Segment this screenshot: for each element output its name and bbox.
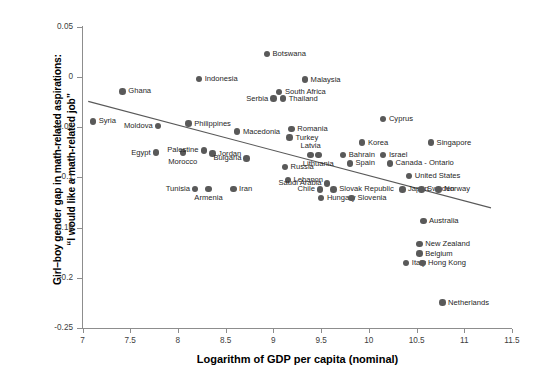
data-point [302, 76, 309, 83]
data-point [205, 186, 212, 193]
y-tick-mark [77, 127, 82, 128]
x-tick-label: 9.5 [301, 336, 341, 345]
data-point [196, 76, 203, 83]
data-point-label: Korea [368, 138, 388, 147]
data-point-label: United States [415, 171, 461, 180]
data-point-label: Canada - Ontario [396, 158, 454, 167]
x-tick-label: 11.5 [492, 336, 532, 345]
data-point [419, 260, 426, 267]
data-point-label: Tunisia [166, 184, 190, 193]
data-point [234, 128, 241, 135]
data-point [270, 95, 277, 102]
x-tick-label: 10 [349, 336, 389, 345]
data-point-label: Singapore [437, 138, 472, 147]
data-point-label: Norway [444, 184, 470, 193]
x-tick-mark [512, 329, 513, 333]
data-point-label: Iran [239, 184, 252, 193]
data-point [288, 126, 295, 133]
data-point [348, 195, 355, 202]
x-tick-label: 7 [63, 336, 103, 345]
y-tick-mark [77, 278, 82, 279]
x-tick-label: 9 [253, 336, 293, 345]
x-tick-mark [178, 329, 179, 333]
data-point [307, 152, 314, 159]
y-tick-label: 0.05 [29, 22, 73, 31]
x-tick-label: 10.5 [397, 336, 437, 345]
data-point [276, 89, 283, 96]
data-point [324, 180, 331, 187]
data-point-label: Hong Kong [428, 258, 466, 267]
data-point-label: New Zealand [425, 239, 470, 248]
data-point-label: Indonesia [205, 74, 238, 83]
x-tick-label: 11 [444, 336, 484, 345]
data-point [435, 186, 442, 193]
x-axis-title: Logarithm of GDP per capita (nominal) [83, 353, 512, 365]
x-tick-mark [83, 329, 84, 333]
x-tick-mark [273, 329, 274, 333]
data-point-label: Syria [99, 116, 116, 125]
x-tick-label: 8.5 [206, 336, 246, 345]
data-point-label: Spain [356, 158, 375, 167]
data-point [119, 88, 126, 95]
data-point [153, 149, 160, 156]
data-point-label: Cyprus [389, 114, 413, 123]
data-point [406, 173, 413, 180]
x-tick-label: 8 [158, 336, 198, 345]
data-point [403, 260, 410, 267]
data-point-label: Netherlands [448, 298, 489, 307]
data-point [416, 241, 423, 248]
data-point [286, 134, 293, 141]
data-point [90, 118, 97, 125]
data-point-label: Ghana [128, 86, 151, 95]
data-point [428, 139, 435, 146]
data-point-label: Moldova [124, 121, 153, 130]
data-point [315, 152, 322, 159]
data-point-label: Slovak Republic [339, 184, 393, 193]
y-axis-line [82, 26, 83, 329]
data-point-label: Philippines [194, 119, 231, 128]
data-point [330, 186, 337, 193]
data-point-label: Macedonia [243, 127, 280, 136]
x-tick-mark [369, 329, 370, 333]
data-point [418, 186, 425, 193]
y-tick-label: 0 [29, 72, 73, 81]
y-tick-label: -0.1 [29, 172, 73, 181]
data-point [439, 299, 446, 306]
data-point [420, 218, 427, 225]
data-point [387, 160, 394, 167]
x-tick-label: 7.5 [110, 336, 150, 345]
data-point [380, 116, 387, 123]
data-point-label: Botswana [273, 49, 306, 58]
x-tick-mark [226, 329, 227, 333]
data-point [155, 123, 162, 130]
x-axis-line [82, 328, 512, 329]
y-tick-label: -0.15 [29, 223, 73, 232]
data-point [192, 186, 199, 193]
data-point-label: Australia [429, 216, 459, 225]
data-point-label: South Africa [285, 87, 326, 96]
x-tick-mark [464, 329, 465, 333]
data-point [347, 160, 354, 167]
y-tick-label: -0.25 [29, 323, 73, 332]
x-tick-mark [130, 329, 131, 333]
y-tick-label: -0.2 [29, 273, 73, 282]
data-point [185, 120, 192, 127]
y-tick-label: -0.05 [29, 122, 73, 131]
y-tick-mark [77, 328, 82, 329]
data-point [230, 186, 237, 193]
y-tick-mark [77, 77, 82, 78]
x-tick-mark [321, 329, 322, 333]
y-tick-mark [77, 177, 82, 178]
data-point-label: Saudi Arabia [279, 178, 322, 187]
scatter-chart: Girl–boy gender gap in math-related aspi… [0, 0, 549, 380]
data-point-label: Malaysia [311, 75, 341, 84]
data-point [416, 250, 423, 257]
x-tick-mark [417, 329, 418, 333]
data-point [280, 95, 287, 102]
data-point-label: Slovenia [357, 193, 386, 202]
data-point-label: Serbia [246, 94, 268, 103]
data-point-label: Lithuania [44, 159, 549, 168]
data-point-label: Latvia [36, 141, 549, 150]
y-tick-mark [77, 27, 82, 28]
y-tick-mark [77, 228, 82, 229]
